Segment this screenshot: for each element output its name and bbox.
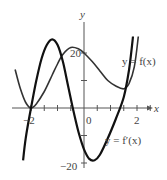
x-tick-label-0: 0: [86, 114, 92, 126]
f-prime-curve-label: y = f′(x): [105, 134, 141, 147]
y-tick-label-neg20: −20: [60, 160, 78, 172]
x-tick-label-2: 2: [134, 114, 140, 126]
y-axis-label: y: [79, 8, 85, 20]
x-tick-label-neg2: −2: [23, 114, 35, 126]
f-curve-label: y = f(x): [122, 55, 156, 68]
chart: y x −2 0 2 20 −20 y = f(x) y = f′(x): [0, 0, 167, 180]
y-tick-label-20: 20: [70, 47, 82, 59]
x-axis-label: x: [153, 102, 159, 114]
